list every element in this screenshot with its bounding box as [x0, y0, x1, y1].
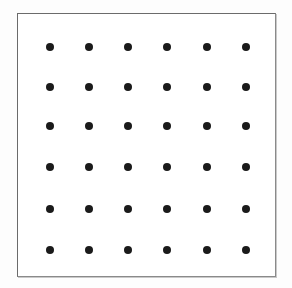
- figure-root: [0, 0, 292, 288]
- lattice-dot: [85, 122, 93, 130]
- lattice-dot: [46, 83, 54, 91]
- lattice-dot: [85, 163, 93, 171]
- lattice-dot: [163, 163, 171, 171]
- lattice-dot: [203, 246, 211, 254]
- lattice-dot: [85, 205, 93, 213]
- lattice-dot: [242, 246, 250, 254]
- lattice-dot: [85, 83, 93, 91]
- lattice-dot: [124, 122, 132, 130]
- lattice-dot: [124, 83, 132, 91]
- lattice-dot: [163, 43, 171, 51]
- lattice-dot: [46, 122, 54, 130]
- lattice-dot: [46, 205, 54, 213]
- lattice-dot: [242, 122, 250, 130]
- lattice-dot: [124, 246, 132, 254]
- lattice-dot: [46, 246, 54, 254]
- lattice-dot: [242, 163, 250, 171]
- lattice-dot: [163, 122, 171, 130]
- lattice-dot: [46, 163, 54, 171]
- lattice-dot: [124, 205, 132, 213]
- lattice-dot: [85, 246, 93, 254]
- lattice-dot: [203, 163, 211, 171]
- lattice-dot: [203, 122, 211, 130]
- lattice-dot: [242, 205, 250, 213]
- lattice-dot: [203, 43, 211, 51]
- lattice-dot: [163, 246, 171, 254]
- lattice-dot: [124, 163, 132, 171]
- lattice-dot: [203, 83, 211, 91]
- grid-frame-border: [17, 13, 276, 277]
- lattice-dot: [163, 83, 171, 91]
- lattice-dot: [242, 43, 250, 51]
- lattice-dot: [203, 205, 211, 213]
- lattice-dot: [46, 43, 54, 51]
- lattice-dot: [124, 43, 132, 51]
- lattice-dot: [242, 83, 250, 91]
- lattice-dot: [85, 43, 93, 51]
- dot-lattice: [18, 14, 275, 276]
- lattice-dot: [163, 205, 171, 213]
